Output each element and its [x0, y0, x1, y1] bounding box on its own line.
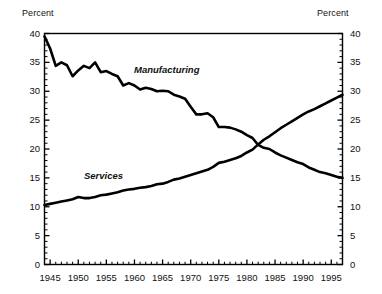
y-tick-label-left: 10	[14, 201, 40, 212]
y-tick-label-right: 25	[350, 114, 376, 125]
y-tick-label-right: 35	[350, 56, 376, 67]
y-tick-label-left: 0	[14, 259, 40, 270]
y-tick-label-left: 40	[14, 28, 40, 39]
y-tick-label-left: 20	[14, 143, 40, 154]
chart-container: Percent Percent 0510152025303540 0510152…	[0, 0, 382, 294]
series-label-services: Services	[84, 170, 123, 181]
y-tick-label-left: 30	[14, 85, 40, 96]
y-tick-label-right: 0	[350, 259, 376, 270]
y-tick-label-left: 35	[14, 56, 40, 67]
y-tick-label-left: 5	[14, 230, 40, 241]
y-tick-label-right: 5	[350, 230, 376, 241]
y-tick-label-right: 20	[350, 143, 376, 154]
y-tick-label-right: 30	[350, 85, 376, 96]
y-tick-label-right: 15	[350, 172, 376, 183]
y-tick-label-left: 25	[14, 114, 40, 125]
plot-area	[0, 0, 382, 294]
y-tick-label-right: 10	[350, 201, 376, 212]
x-tick-label: 1995	[315, 272, 347, 283]
y-tick-label-left: 15	[14, 172, 40, 183]
series-label-manufacturing: Manufacturing	[134, 64, 199, 75]
y-tick-label-right: 40	[350, 28, 376, 39]
